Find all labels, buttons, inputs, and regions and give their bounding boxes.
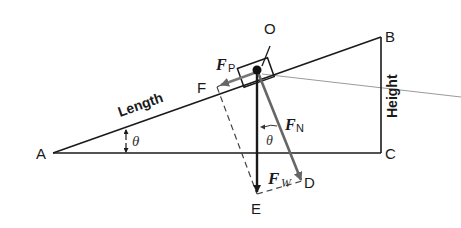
point-label-f: F [197, 79, 206, 96]
incline-line [53, 37, 381, 153]
svg-text:F: F [267, 169, 280, 188]
force-weight-label: F W [267, 169, 292, 190]
svg-text:F: F [284, 116, 296, 133]
svg-text:N: N [296, 122, 304, 134]
diagram-canvas: A B C D E F O Length Height θ θ F P F N … [0, 0, 461, 228]
guide-line [262, 74, 461, 97]
dashed-line-f-top [217, 85, 221, 87]
point-label-o: O [264, 20, 276, 37]
dashed-line-f-e [217, 87, 257, 194]
dashed-line-e-d [257, 181, 302, 194]
force-parallel-label: F P [215, 56, 235, 74]
point-label-a: A [36, 145, 46, 162]
force-angle-label: θ [266, 133, 273, 148]
base-angle-label: θ [132, 133, 140, 149]
svg-text:F: F [215, 56, 227, 73]
inclined-plane-diagram: A B C D E F O Length Height θ θ F P F N … [0, 0, 461, 228]
point-label-c: C [385, 145, 396, 162]
point-label-b: B [385, 28, 395, 45]
point-label-e: E [251, 200, 261, 217]
force-angle-arc [264, 125, 277, 127]
height-label: Height [384, 74, 400, 118]
force-normal-label: F N [284, 116, 304, 134]
force-angle-arrow-icon [260, 125, 265, 130]
svg-text:W: W [281, 176, 292, 190]
center-of-mass-dot [253, 66, 262, 75]
point-label-d: D [304, 174, 315, 191]
svg-text:P: P [228, 62, 235, 74]
